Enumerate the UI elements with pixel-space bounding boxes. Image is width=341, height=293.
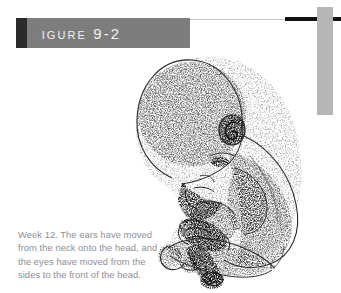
figure-page: Figure 9-2 [0,0,341,293]
figure-number-label: Figure 9-2 [27,26,121,41]
banner-accent-block [16,18,27,48]
figure-caption: Week 12. The ears have moved from the ne… [18,228,158,282]
figure-banner: Figure 9-2 [16,18,190,48]
header-thin-rule [190,19,286,20]
